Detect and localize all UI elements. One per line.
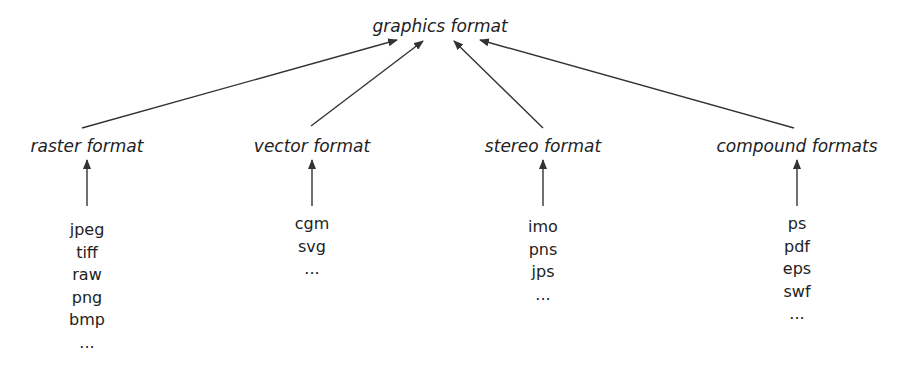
compound-formats-list: ps pdf eps swf ...: [783, 213, 811, 326]
category-compound-label: compound formats: [716, 138, 877, 155]
raster-format-list: jpeg tiff raw png bmp ...: [69, 219, 105, 354]
vector-format-list: cgm svg ...: [295, 213, 330, 281]
stereo-format-list: imo pns jps ...: [528, 216, 558, 306]
category-vector-label: vector format: [254, 138, 370, 155]
list-item: eps: [783, 258, 811, 281]
list-item: bmp: [69, 309, 105, 332]
list-item: ps: [783, 213, 811, 236]
arrow-compound-to-root: [480, 40, 794, 128]
list-item: png: [69, 287, 105, 310]
list-item: ...: [295, 258, 330, 281]
list-item: pdf: [783, 236, 811, 259]
list-item: tiff: [69, 242, 105, 265]
list-item: swf: [783, 281, 811, 304]
list-item: ...: [69, 332, 105, 355]
list-item: raw: [69, 264, 105, 287]
list-item: svg: [295, 236, 330, 259]
root-node-label: graphics format: [372, 18, 507, 35]
arrow-vector-to-root: [311, 41, 423, 126]
arrow-raster-to-root: [82, 40, 397, 128]
category-stereo-label: stereo format: [485, 138, 601, 155]
connector-arrows: [0, 0, 908, 366]
category-raster-label: raster format: [31, 138, 144, 155]
list-item: jpeg: [69, 219, 105, 242]
graphics-format-diagram: graphics format raster format vector for…: [0, 0, 908, 366]
list-item: imo: [528, 216, 558, 239]
list-item: jps: [528, 261, 558, 284]
list-item: ...: [528, 284, 558, 307]
list-item: cgm: [295, 213, 330, 236]
list-item: ...: [783, 303, 811, 326]
list-item: pns: [528, 239, 558, 262]
